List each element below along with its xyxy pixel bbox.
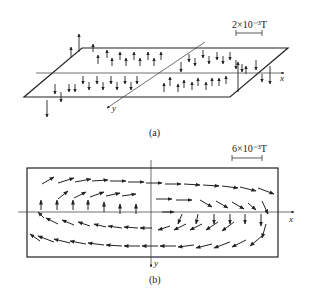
figure-canvas: 2×10⁻³T x y	[0, 0, 312, 304]
x-axis-label-a: x	[279, 73, 284, 83]
y-axis-label-b: y	[153, 258, 158, 268]
caption-a: (a)	[149, 127, 160, 139]
scale-label-a: 2×10⁻³T	[232, 19, 267, 30]
panel-b: 6×10⁻³T x y	[18, 143, 294, 286]
field-arrows-a	[47, 34, 270, 117]
y-axis-label-a: y	[111, 103, 116, 113]
plane-outline	[24, 48, 288, 97]
scale-bar-a: 2×10⁻³T	[232, 19, 267, 36]
scale-label-b: 6×10⁻³T	[232, 143, 267, 154]
y-axis-a	[107, 42, 205, 108]
caption-b: (b)	[149, 274, 161, 286]
field-vectors-b	[30, 177, 274, 248]
panel-a: 2×10⁻³T x y	[24, 19, 288, 139]
scale-bar-b: 6×10⁻³T	[232, 143, 267, 161]
x-axis-label-b: x	[288, 214, 293, 224]
